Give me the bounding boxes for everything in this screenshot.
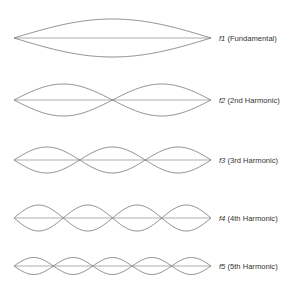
wave-envelope-upper xyxy=(14,19,211,38)
harmonic-row-5: f5 (5th Harmonic) xyxy=(14,258,278,275)
harmonic-label: f2 (2nd Harmonic) xyxy=(219,96,280,105)
harmonic-row-1: f1 (Fundamental) xyxy=(14,19,277,57)
harmonics-diagram: f1 (Fundamental)f2 (2nd Harmonic)f3 (3rd… xyxy=(0,0,297,289)
harmonic-label: f3 (3rd Harmonic) xyxy=(219,156,279,165)
harmonic-row-4: f4 (4th Harmonic) xyxy=(14,205,278,231)
harmonic-row-2: f2 (2nd Harmonic) xyxy=(14,84,280,116)
harmonic-row-3: f3 (3rd Harmonic) xyxy=(14,147,279,173)
harmonic-label: f1 (Fundamental) xyxy=(219,34,277,43)
harmonic-label: f4 (4th Harmonic) xyxy=(219,214,278,223)
harmonic-name: (2nd Harmonic) xyxy=(225,96,280,105)
harmonic-name: (5th Harmonic) xyxy=(225,262,278,271)
harmonic-name: (Fundamental) xyxy=(225,34,277,43)
harmonic-label: f5 (5th Harmonic) xyxy=(219,262,278,271)
harmonic-name: (4th Harmonic) xyxy=(225,214,278,223)
wave-envelope-lower xyxy=(14,38,211,57)
harmonic-name: (3rd Harmonic) xyxy=(225,156,278,165)
